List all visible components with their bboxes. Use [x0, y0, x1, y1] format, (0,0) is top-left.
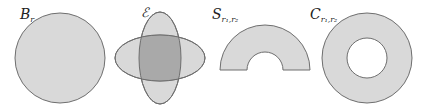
- label-half-annulus: Sr₁,r₂: [212, 6, 238, 24]
- label-ellipses: ℰ: [141, 5, 150, 20]
- label-annulus: Cr₁,r₂: [310, 6, 337, 24]
- figure-canvas: Br ℰ Sr₁,r₂ Cr₁,r₂: [0, 0, 427, 108]
- disk-shape: [15, 13, 105, 103]
- crossed-ellipses-shape: [115, 12, 205, 104]
- label-ball: Br: [19, 6, 35, 24]
- annulus-shape: [322, 13, 412, 103]
- half-annulus-shape: [220, 25, 310, 70]
